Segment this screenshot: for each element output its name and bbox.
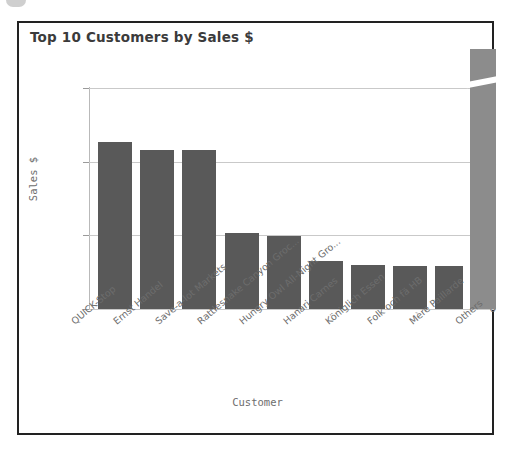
plot-area: 150k 100k 50k 0 Sales $: [19, 23, 496, 437]
bar-others[interactable]: [470, 49, 496, 309]
chart-panel: Top 10 Customers by Sales $ 150k 100k 50…: [17, 21, 494, 435]
ytick-mark-150k: [83, 88, 89, 89]
bar-quick-stop[interactable]: [98, 142, 132, 309]
y-axis-title: Sales $: [27, 157, 39, 201]
ytick-mark-50k: [83, 235, 89, 236]
x-axis-title: Customer: [19, 396, 496, 408]
y-axis-line: [89, 87, 90, 310]
screenshot-root: Top 10 Customers by Sales $ 150k 100k 50…: [0, 0, 512, 461]
corner-artifact: [6, 0, 26, 7]
ytick-mark-100k: [83, 162, 89, 163]
gridline-150k: [89, 88, 496, 89]
